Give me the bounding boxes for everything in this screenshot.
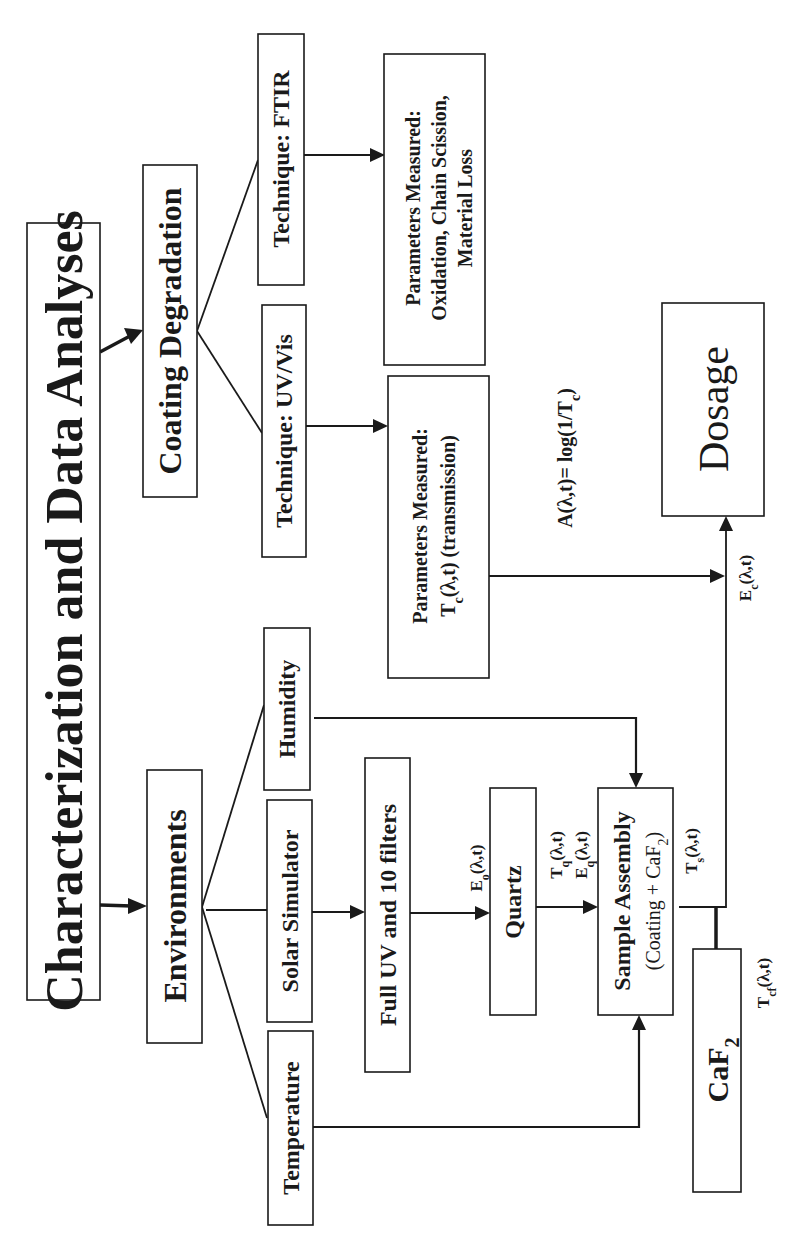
- flow-diagram: Characterization and Data Analyses Coati…: [0, 0, 800, 1249]
- technique-ftir-label: Technique: FTIR: [268, 70, 294, 248]
- technique-ftir-box: Technique: FTIR: [258, 34, 304, 285]
- ts-label: Ts(λ,t): [682, 828, 707, 874]
- arrowhead-icon: [710, 569, 725, 583]
- coating-degradation-box: Coating Degradation: [143, 165, 197, 497]
- arrowhead-icon: [583, 900, 598, 914]
- sample-assembly-label: Sample Assembly: [609, 811, 635, 990]
- caf2-box: CaF2: [693, 949, 743, 1192]
- arrow-title-to-environments: [100, 905, 132, 906]
- eq-label: Eq(λ,t): [572, 831, 597, 879]
- solar-simulator-box: Solar Simulator: [267, 800, 312, 1022]
- full-uv-box: Full UV and 10 filters: [365, 758, 410, 1072]
- humidity-label: Humidity: [274, 660, 300, 759]
- arrow-temperature-to-sample: [313, 1028, 639, 1127]
- coating-degradation-label: Coating Degradation: [152, 187, 188, 474]
- humidity-box: Humidity: [264, 628, 310, 790]
- dosage-label: Dosage: [691, 346, 737, 472]
- ec-label: Ec(λ,t): [736, 555, 761, 601]
- arrowhead-icon: [632, 1015, 646, 1030]
- arrowhead-icon: [370, 148, 385, 162]
- arrow-title-to-coating: [100, 336, 130, 352]
- arrowhead-icon: [350, 905, 365, 919]
- arrowhead-icon: [719, 516, 733, 531]
- arrowhead-icon: [629, 773, 643, 788]
- params-ftir-box: Parameters Measured: Oxidation, Chain Sc…: [384, 54, 485, 365]
- params-ftir-line2: Oxidation, Chain Scission,: [428, 95, 450, 321]
- full-uv-label: Full UV and 10 filters: [375, 804, 401, 1026]
- branch-coating-to-ftir: [197, 160, 258, 331]
- solar-simulator-label: Solar Simulator: [277, 829, 303, 992]
- environments-box: Environments: [147, 770, 202, 1043]
- params-ftir-line1: Parameters Measured:: [402, 110, 424, 306]
- params-uvvis-box: Parameters Measured: Tc(λ,t) (transmissi…: [388, 376, 489, 678]
- params-ftir-line3: Material Loss: [454, 149, 476, 268]
- branch-env-to-humidity: [202, 705, 264, 907]
- temperature-box: Temperature: [268, 1031, 313, 1225]
- quartz-box: Quartz: [490, 788, 536, 1015]
- quartz-label: Quartz: [500, 865, 526, 939]
- diagram-title: Characterization and Data Analyses: [36, 210, 93, 1012]
- arrowhead-icon: [475, 906, 490, 920]
- dosage-box: Dosage: [662, 303, 764, 516]
- sample-assembly-box: Sample Assembly (Coating + CaF2): [598, 788, 673, 1015]
- tcf-label: Tcf(λ,t): [754, 958, 779, 1008]
- absorbance-formula: A(λ,t)= log(1/Tc): [554, 388, 583, 528]
- environments-label: Environments: [157, 809, 193, 1002]
- branch-env-to-temperature: [202, 907, 267, 1118]
- arrowhead-icon: [373, 419, 388, 433]
- title-box: Characterization and Data Analyses: [27, 210, 100, 1012]
- eo-label: Eo(λ,t): [467, 845, 492, 892]
- technique-uvvis-label: Technique: UV/Vis: [271, 334, 297, 528]
- branch-coating-to-uvvis: [197, 331, 262, 433]
- params-uvvis-line1: Parameters Measured:: [409, 428, 431, 624]
- technique-uvvis-box: Technique: UV/Vis: [262, 305, 306, 557]
- temperature-label: Temperature: [278, 1061, 304, 1195]
- arrow-humidity-to-sample: [314, 718, 636, 775]
- arrowhead-icon: [128, 898, 147, 914]
- tq-label: Tq(λ,t): [547, 831, 572, 879]
